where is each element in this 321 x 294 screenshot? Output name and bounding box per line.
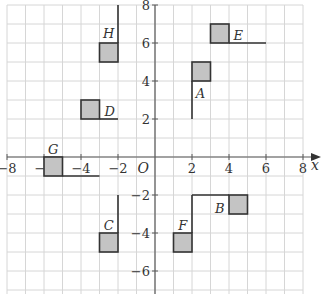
x-tick-label: 8 <box>299 161 307 176</box>
shape-label: H <box>102 26 115 41</box>
shape-square <box>174 233 193 252</box>
y-tick-label: −6 <box>131 264 150 279</box>
shape-square <box>211 24 230 43</box>
shape-square <box>192 62 211 81</box>
y-tick-label: 6 <box>142 36 150 51</box>
shape-label: A <box>195 86 205 101</box>
origin-label: O <box>138 160 150 176</box>
shape-label: E <box>233 28 244 43</box>
x-tick-label: −2 <box>108 161 127 176</box>
shape-square <box>100 233 119 252</box>
x-tick-label: −8 <box>0 161 17 176</box>
shape-label: D <box>103 104 115 119</box>
x-axis-label: x <box>311 157 319 173</box>
y-tick-label: 4 <box>142 74 150 89</box>
y-tick-label: 2 <box>142 112 150 127</box>
y-tick-label: −2 <box>131 188 150 203</box>
x-tick-label: 4 <box>225 161 233 176</box>
shape-square <box>100 43 119 62</box>
shape-label: G <box>48 142 58 157</box>
shape-label: C <box>104 218 114 233</box>
shape-square <box>81 100 100 119</box>
coordinate-grid-figure: −8−6−4−224688642−2−4−6Ox HDGCAEBF <box>0 0 321 294</box>
y-tick-label: 8 <box>142 0 150 13</box>
x-tick-label: 6 <box>262 161 270 176</box>
shape-square <box>44 157 63 176</box>
x-tick-label: −4 <box>71 161 90 176</box>
shape-label: B <box>214 201 225 216</box>
y-tick-label: −4 <box>131 226 150 241</box>
shape-square <box>229 195 248 214</box>
x-tick-label: 2 <box>188 161 196 176</box>
shape-label: F <box>177 218 188 233</box>
